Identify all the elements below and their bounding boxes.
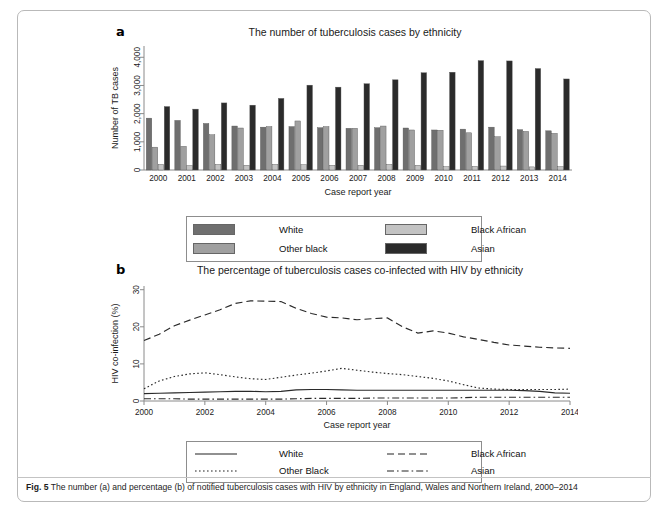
panel-b-letter: b [116, 262, 125, 277]
svg-text:2007: 2007 [349, 174, 368, 183]
legend-b-swatch-1 [385, 449, 471, 459]
svg-text:HIV co-infection (%): HIV co-infection (%) [110, 303, 120, 383]
svg-text:0: 0 [133, 167, 142, 172]
line-chart-b: 010203020002002200420062008201020122014C… [108, 278, 578, 433]
svg-text:2006: 2006 [320, 174, 339, 183]
svg-text:1,000: 1,000 [133, 131, 142, 152]
legend-line-sample [385, 449, 431, 459]
svg-text:30: 30 [132, 285, 141, 295]
svg-text:2,000: 2,000 [133, 103, 142, 124]
svg-text:2001: 2001 [178, 174, 197, 183]
svg-text:Case report year: Case report year [323, 420, 390, 430]
svg-text:2008: 2008 [377, 174, 396, 183]
legend-b-label-0: White [279, 448, 385, 459]
legend-color-swatch [193, 243, 235, 254]
svg-text:2005: 2005 [292, 174, 311, 183]
svg-text:2000: 2000 [135, 408, 154, 417]
caption-body: The number (a) and percentage (b) of not… [48, 482, 577, 492]
svg-text:2000: 2000 [149, 174, 168, 183]
legend-color-swatch [193, 224, 235, 235]
svg-text:2013: 2013 [520, 174, 539, 183]
svg-text:20: 20 [132, 322, 141, 332]
legend-a-label-1: Black African [471, 224, 526, 235]
svg-text:Case report year: Case report year [324, 187, 391, 197]
legend-color-swatch [385, 224, 427, 235]
svg-text:2004: 2004 [263, 174, 282, 183]
svg-text:2010: 2010 [439, 408, 458, 417]
legend-b-label-3: Asian [471, 465, 526, 476]
svg-text:2012: 2012 [492, 174, 511, 183]
figure-caption: Fig. 5 The number (a) and percentage (b)… [26, 482, 646, 493]
svg-text:Number of TB cases: Number of TB cases [110, 67, 120, 149]
svg-text:3,000: 3,000 [133, 75, 142, 96]
caption-divider [17, 477, 651, 478]
svg-text:2003: 2003 [235, 174, 254, 183]
legend-a-swatch-0 [193, 224, 279, 235]
svg-text:2010: 2010 [434, 174, 453, 183]
legend-panel-a: WhiteBlack AfricanOther blackAsian [186, 216, 482, 262]
legend-line-sample [193, 449, 239, 459]
panel-b-title: The percentage of tuberculosis cases co-… [165, 264, 555, 276]
legend-b-swatch-3 [385, 466, 471, 476]
legend-b-label-1: Black African [471, 448, 526, 459]
svg-text:2004: 2004 [257, 408, 276, 417]
legend-color-swatch [385, 243, 427, 254]
svg-text:2012: 2012 [500, 408, 519, 417]
legend-b-swatch-0 [193, 449, 279, 459]
svg-text:2008: 2008 [378, 408, 397, 417]
svg-text:4,000: 4,000 [133, 47, 142, 68]
figure-container: a The number of tuberculosis cases by et… [0, 0, 668, 517]
legend-b-label-2: Other Black [279, 465, 385, 476]
legend-line-sample [193, 466, 239, 476]
legend-b-swatch-2 [193, 466, 279, 476]
svg-text:2002: 2002 [206, 174, 225, 183]
caption-figure-number: Fig. 5 [26, 482, 48, 492]
legend-a-swatch-1 [385, 224, 471, 235]
svg-text:2014: 2014 [549, 174, 568, 183]
legend-a-swatch-2 [193, 243, 279, 254]
legend-a-label-3: Asian [471, 243, 526, 254]
panel-a-title: The number of tuberculosis cases by ethn… [205, 26, 505, 38]
svg-text:0: 0 [132, 398, 141, 403]
svg-text:2006: 2006 [317, 408, 336, 417]
svg-text:2002: 2002 [196, 408, 215, 417]
svg-text:2009: 2009 [406, 174, 425, 183]
legend-a-swatch-3 [385, 243, 471, 254]
svg-text:10: 10 [132, 359, 141, 369]
legend-a-label-0: White [279, 224, 385, 235]
legend-line-sample [385, 466, 431, 476]
svg-text:2011: 2011 [463, 174, 481, 183]
panel-a-letter: a [116, 24, 125, 39]
legend-a-label-2: Other black [279, 243, 385, 254]
bar-chart-a: 01,0002,0003,0004,0002000200120022003200… [108, 40, 578, 200]
svg-text:2014: 2014 [561, 408, 578, 417]
